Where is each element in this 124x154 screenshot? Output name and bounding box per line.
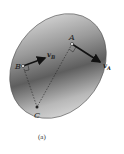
point-a-label: A — [68, 33, 75, 42]
point-b-marker — [22, 65, 25, 68]
velocity-a-label: vA — [103, 61, 111, 71]
point-b-label: B — [14, 62, 21, 71]
point-c-marker — [36, 106, 39, 109]
figure-caption: (a) — [38, 133, 46, 141]
rigid-body-diagram: A B C vA vB (a) — [0, 0, 124, 154]
point-c-label: C — [34, 111, 40, 120]
point-a-marker — [71, 43, 74, 46]
